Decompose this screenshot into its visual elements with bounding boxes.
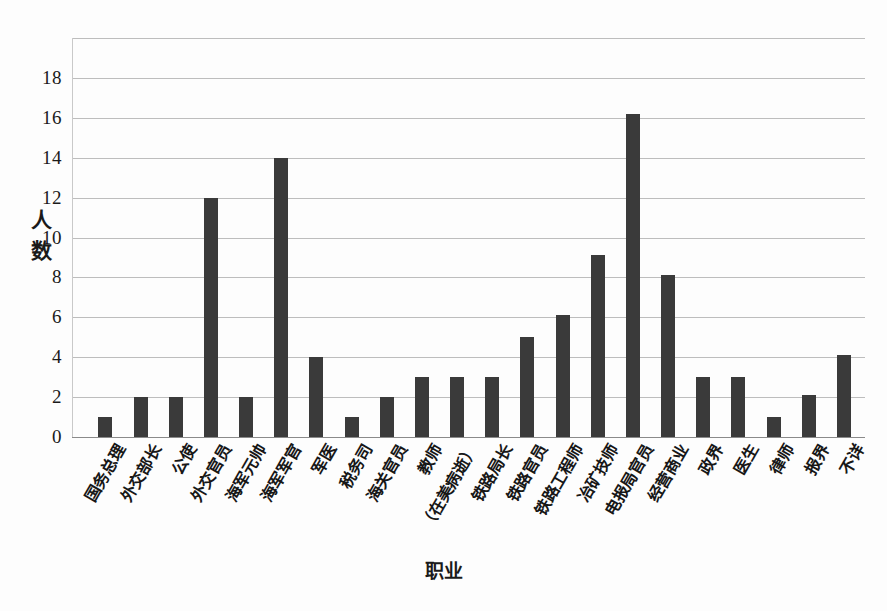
bar [626, 114, 640, 437]
bar [169, 397, 183, 437]
bar [415, 377, 429, 437]
x-tick-label: 律师 [767, 441, 798, 477]
bar [134, 397, 148, 437]
bar-chart: 人 数 024681012141618 国务总理外交部长公使外交官员海军元帅海军… [0, 0, 887, 611]
bar [520, 337, 534, 437]
bar [309, 357, 323, 437]
y-tick-label-0: 0 [28, 427, 62, 446]
y-tick-label-2: 2 [28, 387, 62, 406]
x-tick-label: 军医 [309, 441, 340, 477]
bar [239, 397, 253, 437]
y-tick-label-14: 14 [28, 148, 62, 167]
bar [98, 417, 112, 437]
y-tick-label-10: 10 [28, 228, 62, 247]
bar [485, 377, 499, 437]
bar [204, 198, 218, 437]
bar [661, 275, 675, 437]
bar [345, 417, 359, 437]
x-tick-label: 政界 [696, 441, 727, 477]
bar [274, 158, 288, 437]
bar [380, 397, 394, 437]
x-tick-label: 报界 [802, 441, 833, 477]
bar [802, 395, 816, 437]
x-axis-tick-labels: 国务总理外交部长公使外交官员海军元帅海军军官军医税务司海关官员教师（在美病逝）铁… [72, 437, 865, 562]
x-tick-label: 不详 [837, 441, 868, 477]
bar-series [72, 38, 865, 437]
bar [696, 377, 710, 437]
y-tick-label-12: 12 [28, 188, 62, 207]
bar [450, 377, 464, 437]
x-tick-label: 公使 [169, 441, 200, 477]
y-tick-label-16: 16 [28, 108, 62, 127]
y-tick-label-6: 6 [28, 307, 62, 326]
x-tick-label: 医生 [731, 441, 762, 477]
y-tick-label-8: 8 [28, 267, 62, 286]
bar [556, 315, 570, 437]
bar [731, 377, 745, 437]
bar [837, 355, 851, 437]
x-axis-title: 职业 [0, 556, 887, 583]
bar [767, 417, 781, 437]
y-tick-label-18: 18 [28, 68, 62, 87]
bar [591, 255, 605, 437]
plot-area [72, 38, 865, 437]
y-tick-label-4: 4 [28, 347, 62, 366]
x-tick-label: 教师 [415, 441, 446, 477]
